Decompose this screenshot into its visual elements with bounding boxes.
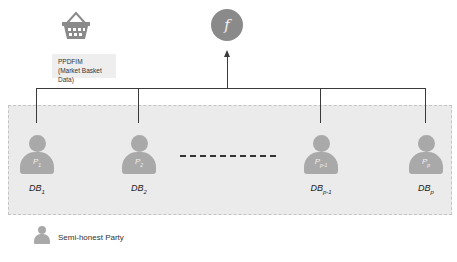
- person-icon: [34, 226, 50, 244]
- person-body: P1: [20, 152, 54, 174]
- person-head: [29, 135, 46, 152]
- db-1: DB1: [17, 183, 57, 195]
- basket-label-title: PPDFIM: [58, 57, 116, 66]
- person-body: Pp-1: [304, 152, 338, 174]
- shopping-basket-icon: [58, 8, 94, 44]
- db-sub: p: [431, 189, 434, 195]
- party-1: P1: [20, 135, 54, 183]
- function-node: f: [211, 9, 243, 41]
- db-sub: p-1: [323, 189, 332, 195]
- connector-main: [227, 56, 228, 88]
- person-head: [131, 135, 148, 152]
- connector-party-p: [425, 88, 426, 123]
- connector-party-1: [36, 88, 37, 123]
- db-label: DB: [418, 183, 431, 193]
- party-p-1: Pp-1: [304, 135, 338, 183]
- db-p: DBp: [406, 183, 446, 195]
- ellipsis-dashes: [180, 155, 276, 157]
- person-body: Pp: [409, 152, 443, 174]
- party-sub: 2: [140, 162, 143, 168]
- party-p: Pp: [409, 135, 443, 183]
- connector-party-2: [138, 88, 139, 123]
- db-p-1: DBp-1: [301, 183, 341, 195]
- db-2: DB2: [119, 183, 159, 195]
- basket-label: PPDFIM (Market Basket Data): [52, 54, 116, 78]
- db-sub: 1: [42, 189, 45, 195]
- legend-label: Semi-honest Party: [58, 233, 124, 242]
- person-head: [313, 135, 330, 152]
- db-sub: 2: [144, 189, 147, 195]
- connector-party-p-1: [320, 88, 321, 123]
- party-sub: 1: [38, 162, 41, 168]
- db-label: DB: [310, 183, 323, 193]
- parties-region: [8, 105, 452, 215]
- party-sub: p-1: [320, 162, 327, 168]
- person-body: P2: [122, 152, 156, 174]
- connector-bus: [36, 88, 426, 89]
- db-label: DB: [29, 183, 42, 193]
- basket-label-subtitle: (Market Basket Data): [58, 66, 116, 84]
- party-2: P2: [122, 135, 156, 183]
- person-head: [418, 135, 435, 152]
- party-sub: p: [427, 162, 430, 168]
- db-label: DB: [131, 183, 144, 193]
